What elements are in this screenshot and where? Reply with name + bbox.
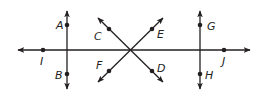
point-a (65, 23, 70, 28)
point-label-d: D (157, 62, 165, 75)
point-i (41, 48, 46, 53)
point-label-h: H (205, 69, 213, 82)
point-label-c: C (94, 30, 102, 43)
point-label-g: G (207, 20, 216, 33)
point-f (107, 69, 112, 74)
point-g (198, 23, 203, 28)
point-label-b: B (55, 69, 63, 82)
point-label-i: I (40, 55, 43, 68)
geometry-diagram: ABCDEFGHIJ (0, 0, 260, 94)
point-c (107, 27, 112, 32)
point-e (150, 27, 155, 32)
point-d (150, 69, 155, 74)
point-j (222, 48, 227, 53)
point-label-f: F (96, 59, 103, 72)
point-h (198, 72, 203, 77)
point-b (65, 72, 70, 77)
point-label-j: J (220, 55, 225, 68)
point-label-a: A (55, 19, 64, 32)
point-label-e: E (157, 28, 164, 41)
